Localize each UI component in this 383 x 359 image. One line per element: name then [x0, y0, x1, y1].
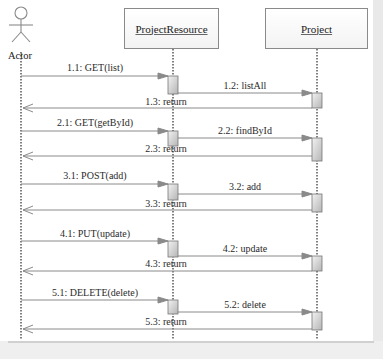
message-label: 5.1: DELETE(delete) [52, 287, 138, 298]
message-label: 2.1: GET(getById) [57, 117, 133, 128]
message-label: 5.2: delete [224, 299, 266, 310]
participant-label: ProjectResource [135, 23, 207, 35]
participant-label: Project [301, 23, 332, 35]
project-activation [312, 194, 322, 212]
stick-figure-icon [9, 7, 33, 42]
message-label: 4.1: PUT(update) [60, 228, 130, 239]
project-activation [312, 138, 322, 161]
message-label: 2.2: findById [218, 125, 272, 136]
project-activation [312, 93, 322, 108]
message-label: 3.3: return [145, 198, 187, 209]
message-label: 1.3: return [145, 96, 187, 107]
actor-label: Actor [8, 50, 32, 61]
resource-activation [168, 76, 178, 94]
message-label: 1.2: listAll [224, 80, 267, 91]
project-activation [312, 312, 322, 330]
message-label: 3.1: POST(add) [63, 170, 126, 181]
message-label: 3.2: add [229, 181, 261, 192]
message-label: 4.3: return [145, 258, 187, 269]
message-label: 4.2: update [223, 243, 267, 254]
participant-project-resource[interactable]: ProjectResource [124, 8, 219, 49]
participant-project[interactable]: Project [265, 8, 368, 49]
message-label: 2.3: return [145, 143, 187, 154]
project-activation [312, 256, 322, 271]
message-label: 5.3: return [145, 316, 187, 327]
sequence-diagram: Actor ProjectResource Project 1.1: GET(l… [0, 0, 383, 359]
resource-activation [168, 241, 178, 257]
resource-activation [168, 300, 178, 314]
diagram-graphics [0, 0, 383, 359]
message-label: 1.1: GET(list) [67, 62, 123, 73]
